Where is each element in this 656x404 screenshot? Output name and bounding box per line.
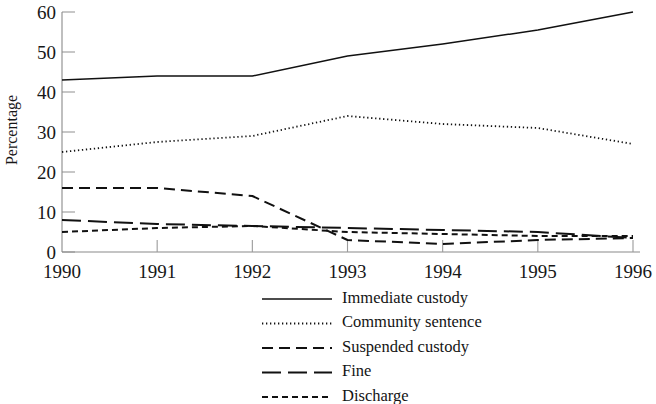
x-tick-label: 1993 (329, 261, 367, 282)
y-tick-label: 30 (37, 122, 56, 143)
series-line (62, 12, 633, 80)
y-tick-label: 20 (37, 162, 56, 183)
legend-label: Discharge (342, 386, 409, 404)
chart-container: Percentage 0102030405060 199019911992199… (0, 0, 656, 404)
series-line (62, 116, 633, 152)
x-axis-ticks: 1990199119921993199419951996 (43, 240, 652, 282)
y-tick-label: 60 (37, 2, 56, 23)
y-axis-title-label: Percentage (3, 95, 21, 165)
y-axis-title: Percentage (3, 95, 21, 165)
legend-label: Immediate custody (342, 288, 469, 307)
legend-label: Suspended custody (342, 337, 470, 356)
y-tick-label: 10 (37, 202, 56, 223)
x-tick-label: 1992 (233, 261, 271, 282)
series-group (62, 12, 633, 244)
y-tick-label: 40 (37, 82, 56, 103)
legend-label: Community sentence (342, 312, 482, 331)
line-chart: Percentage 0102030405060 199019911992199… (0, 0, 656, 404)
x-tick-label: 1996 (614, 261, 652, 282)
x-tick-label: 1994 (424, 261, 463, 282)
y-tick-label: 50 (37, 42, 56, 63)
x-tick-label: 1990 (43, 261, 81, 282)
x-tick-label: 1991 (138, 261, 176, 282)
series-line (62, 226, 633, 236)
legend-label: Fine (342, 361, 371, 380)
chart-legend: Immediate custodyCommunity sentenceSuspe… (262, 288, 482, 404)
y-tick-label: 0 (47, 242, 57, 263)
x-tick-label: 1995 (519, 261, 557, 282)
y-axis-ticks: 0102030405060 (37, 2, 75, 263)
